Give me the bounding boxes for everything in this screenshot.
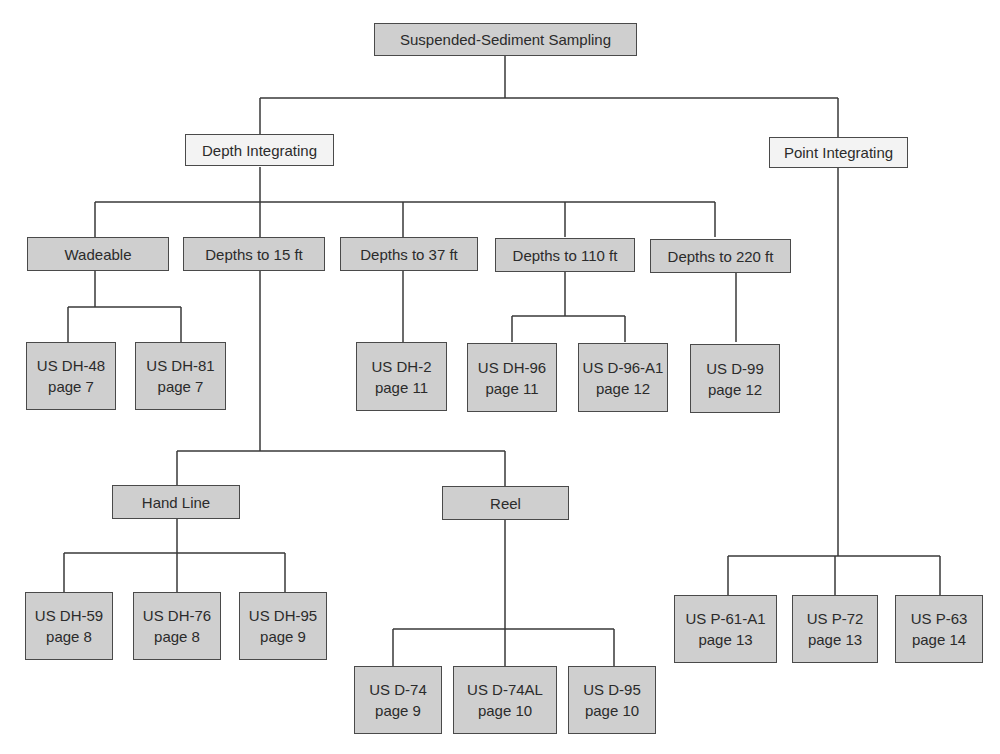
sampler-us-d-96-a1: US D-96-A1 page 12 (578, 343, 668, 412)
suspension-hand-line: Hand Line (112, 485, 240, 519)
category-wadeable: Wadeable (27, 237, 169, 271)
sampler-us-dh-95: US DH-95 page 9 (239, 592, 327, 660)
category-depths-15ft: Depths to 15 ft (183, 237, 325, 271)
sampler-us-d-99: US D-99 page 12 (690, 344, 780, 413)
root-label: Suspended-Sediment Sampling (400, 29, 611, 50)
sampler-us-d-74: US D-74 page 9 (354, 666, 442, 734)
depth-integrating-node: Depth Integrating (185, 134, 334, 166)
suspension-reel: Reel (442, 486, 569, 520)
sampler-us-p-61-a1: US P-61-A1 page 13 (674, 595, 777, 663)
sampler-us-dh-59: US DH-59 page 8 (25, 592, 113, 660)
sampler-us-p-72: US P-72 page 13 (792, 595, 878, 663)
sampler-us-dh-76: US DH-76 page 8 (133, 592, 221, 660)
sampler-us-dh-48: US DH-48 page 7 (26, 342, 116, 410)
sampler-us-d-74al: US D-74AL page 10 (453, 666, 557, 734)
point-integrating-node: Point Integrating (769, 137, 908, 168)
category-depths-110ft: Depths to 110 ft (495, 238, 635, 272)
sampler-us-dh-81: US DH-81 page 7 (135, 342, 226, 410)
sampler-us-d-95: US D-95 page 10 (568, 666, 656, 734)
root-node: Suspended-Sediment Sampling (374, 23, 637, 56)
sampler-us-dh-96: US DH-96 page 11 (467, 343, 557, 412)
category-depths-220ft: Depths to 220 ft (650, 239, 791, 273)
category-depths-37ft: Depths to 37 ft (340, 237, 478, 271)
sampler-us-dh-2: US DH-2 page 11 (356, 342, 447, 411)
sampler-us-p-63: US P-63 page 14 (895, 595, 983, 663)
